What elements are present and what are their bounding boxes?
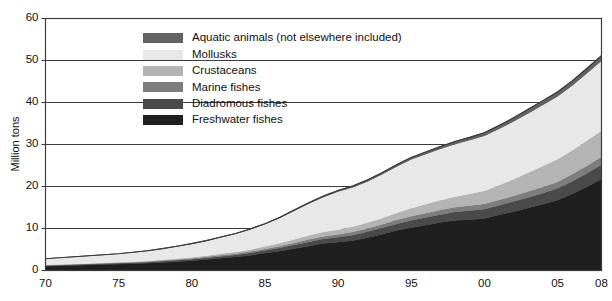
x-tick-label-85: 85 bbox=[245, 277, 285, 289]
legend-label: Aquatic animals (not elsewhere included) bbox=[192, 32, 402, 44]
x-tick-label-90: 90 bbox=[318, 277, 358, 289]
y-tick-label-20: 20 bbox=[5, 179, 39, 191]
legend-label: Marine fishes bbox=[192, 82, 260, 94]
x-tick-label-05: 05 bbox=[538, 277, 578, 289]
legend-label: Crustaceans bbox=[192, 65, 257, 77]
legend-item: Crustaceans bbox=[143, 63, 402, 79]
x-tick-label-08: 08 bbox=[582, 277, 612, 289]
stacked-area-chart: Million tons 0102030405060 7075808590950… bbox=[0, 0, 612, 301]
chart-legend: Aquatic animals (not elsewhere included)… bbox=[143, 30, 402, 128]
legend-swatch-icon bbox=[143, 33, 183, 43]
x-tick-label-80: 80 bbox=[172, 277, 212, 289]
y-tick-label-30: 30 bbox=[5, 137, 39, 149]
legend-item: Diadromous fishes bbox=[143, 96, 402, 112]
legend-label: Freshwater fishes bbox=[192, 114, 283, 126]
x-tick-label-00: 00 bbox=[464, 277, 504, 289]
x-tick-label-75: 75 bbox=[99, 277, 139, 289]
y-tick-label-10: 10 bbox=[5, 221, 39, 233]
legend-swatch-icon bbox=[143, 82, 183, 92]
legend-swatch-icon bbox=[143, 115, 183, 125]
legend-swatch-icon bbox=[143, 66, 183, 76]
legend-item: Freshwater fishes bbox=[143, 112, 402, 128]
legend-label: Mollusks bbox=[192, 49, 237, 61]
y-tick-label-60: 60 bbox=[5, 11, 39, 23]
legend-item: Mollusks bbox=[143, 46, 402, 62]
y-tick-label-40: 40 bbox=[5, 95, 39, 107]
y-tick-label-0: 0 bbox=[5, 263, 39, 275]
legend-label: Diadromous fishes bbox=[192, 98, 287, 110]
x-tick-label-95: 95 bbox=[391, 277, 431, 289]
y-tick-label-50: 50 bbox=[5, 53, 39, 65]
legend-item: Aquatic animals (not elsewhere included) bbox=[143, 30, 402, 46]
legend-item: Marine fishes bbox=[143, 79, 402, 95]
legend-swatch-icon bbox=[143, 99, 183, 109]
legend-swatch-icon bbox=[143, 50, 183, 60]
x-tick-label-70: 70 bbox=[26, 277, 66, 289]
